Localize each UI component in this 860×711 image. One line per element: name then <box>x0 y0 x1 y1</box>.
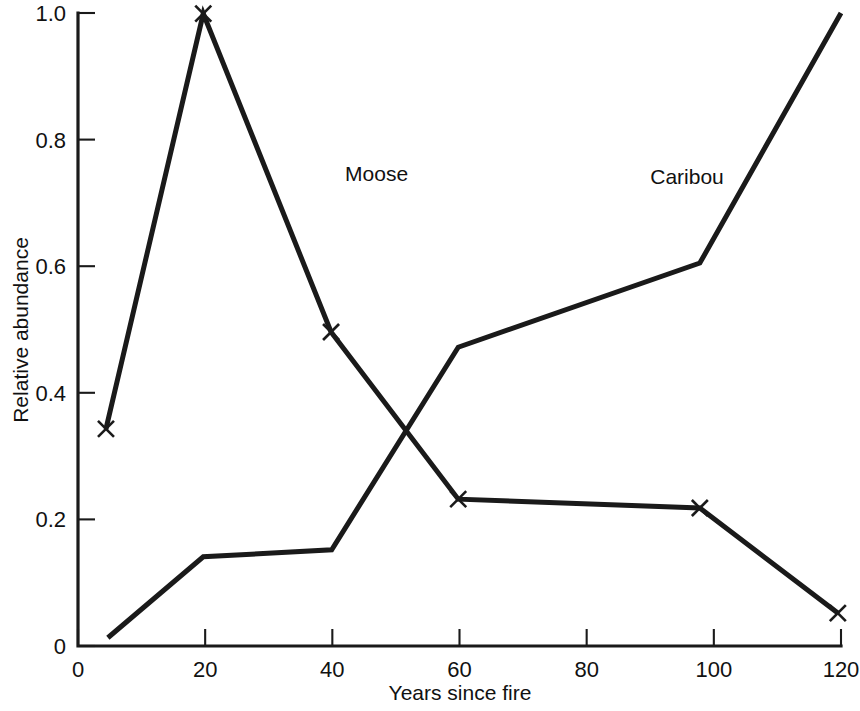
y-axis-tick-label: 1.0 <box>35 1 66 26</box>
line-chart: 00.20.40.60.81.0020406080100120 MooseCar… <box>0 0 860 711</box>
series-label-moose: Moose <box>345 162 408 185</box>
data-point-marker-moose <box>830 605 846 621</box>
axis-tick-labels: 00.20.40.60.81.0020406080100120 <box>35 1 859 682</box>
chart-figure: 00.20.40.60.81.0020406080100120 MooseCar… <box>0 0 860 711</box>
x-axis-tick-label: 20 <box>193 657 217 682</box>
axes <box>78 13 841 646</box>
y-axis-tick-label: 0.2 <box>35 507 66 532</box>
data-point-markers <box>98 6 846 621</box>
x-axis-tick-label: 0 <box>72 657 84 682</box>
x-axis-tick-label: 80 <box>574 657 598 682</box>
x-axis-tick-label: 120 <box>823 657 860 682</box>
series-line-moose <box>106 14 838 613</box>
series-label-caribou: Caribou <box>650 165 724 188</box>
x-axis-tick-label: 100 <box>695 657 732 682</box>
axis-spine <box>78 13 841 646</box>
y-axis-tick-label: 0.8 <box>35 128 66 153</box>
y-axis-title: Relative abundance <box>9 237 32 423</box>
x-axis-title: Years since fire <box>389 681 532 704</box>
series-labels: MooseCaribou <box>345 162 724 188</box>
axis-ticks <box>78 13 841 646</box>
y-axis-tick-label: 0 <box>54 634 66 659</box>
y-axis-tick-label: 0.4 <box>35 381 66 406</box>
x-axis-tick-label: 60 <box>447 657 471 682</box>
y-axis-tick-label: 0.6 <box>35 254 66 279</box>
data-series <box>106 13 841 638</box>
x-axis-tick-label: 40 <box>320 657 344 682</box>
series-line-caribou <box>108 13 841 638</box>
